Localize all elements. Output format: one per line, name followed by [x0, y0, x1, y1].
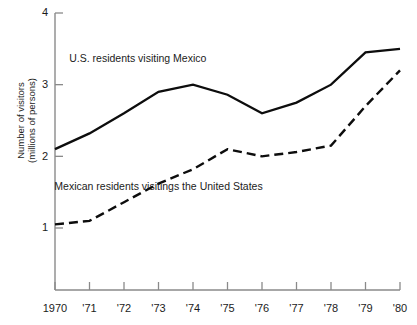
series-annotation-label: U.S. residents visiting Mexico [69, 52, 206, 64]
x-axis-tick-label: '77 [289, 302, 303, 314]
y-axis-tick-label: 4 [42, 6, 48, 18]
series-line-dashed [55, 70, 400, 224]
x-axis-tick-label: '74 [186, 302, 200, 314]
x-axis-tick-label: 1970 [43, 302, 67, 314]
y-axis-title-line1: Number of visitors [15, 82, 26, 159]
y-axis-tick-label: 3 [42, 78, 48, 90]
chart-container: 12341970'71'72'73'74'75'76'77'78'79'80Nu… [0, 0, 417, 325]
series-annotation-label: Mexican residents visitings the United S… [54, 180, 262, 192]
x-axis-tick-label: '71 [82, 302, 96, 314]
y-axis-tick-label: 2 [42, 150, 48, 162]
x-axis-tick-label: '76 [255, 302, 269, 314]
x-axis-tick-label: '75 [220, 302, 234, 314]
y-axis-tick-label: 1 [42, 221, 48, 233]
x-axis-tick-label: '78 [324, 302, 338, 314]
y-axis-title-line2: (millions of persons) [26, 78, 37, 163]
x-axis-tick-label: '72 [117, 302, 131, 314]
series-line-solid [55, 49, 400, 149]
visitors-line-chart: 12341970'71'72'73'74'75'76'77'78'79'80Nu… [0, 0, 417, 325]
x-axis-tick-label: '79 [358, 302, 372, 314]
x-axis-tick-label: '80 [393, 302, 407, 314]
x-axis-tick-label: '73 [151, 302, 165, 314]
